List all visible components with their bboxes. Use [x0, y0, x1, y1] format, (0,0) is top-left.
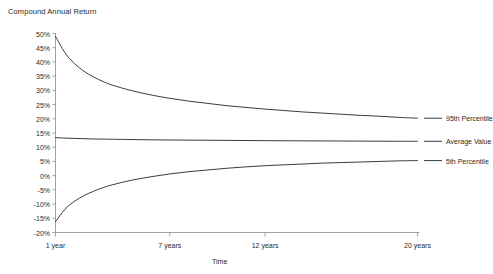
y-tick-label: 10%: [14, 144, 50, 151]
legend-label-2: Average Value: [446, 138, 491, 145]
series-line-2: [56, 138, 418, 142]
y-tick-label: -20%: [14, 229, 50, 236]
y-tick-label: -5%: [14, 186, 50, 193]
y-tick-label: 45%: [14, 44, 50, 51]
y-tick-label: 0%: [14, 172, 50, 179]
y-tick-label: 40%: [14, 58, 50, 65]
y-tick-label: 20%: [14, 115, 50, 122]
legend-label-1: 95th Percentile: [446, 115, 493, 122]
x-tick-label: 7 years: [158, 242, 181, 249]
series-line-1: [56, 36, 418, 118]
x-axis-title: Time: [212, 258, 227, 265]
y-tick-label: -10%: [14, 201, 50, 208]
x-tick-label: 20 years: [404, 242, 431, 249]
x-tick-label: 1 year: [46, 242, 65, 249]
y-tick-label: 15%: [14, 130, 50, 137]
y-tick-label: 25%: [14, 101, 50, 108]
y-tick-label: 5%: [14, 158, 50, 165]
y-tick-label: 30%: [14, 87, 50, 94]
legend-label-3: 5th Percentile: [446, 157, 489, 164]
y-tick-label: 35%: [14, 73, 50, 80]
y-tick-label: -15%: [14, 215, 50, 222]
x-tick-label: 12 years: [252, 242, 279, 249]
series-line-3: [56, 161, 418, 222]
y-tick-label: 50%: [14, 30, 50, 37]
